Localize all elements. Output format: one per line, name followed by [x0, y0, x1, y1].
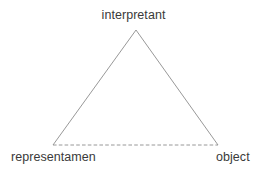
edge-left-side: [53, 30, 136, 145]
node-label-interpretant: interpretant: [0, 9, 267, 22]
node-label-representamen: representamen: [11, 151, 96, 164]
triangle-graphic: [0, 0, 267, 174]
semiotic-triangle-diagram: interpretant representamen object: [0, 0, 267, 174]
node-label-object: object: [216, 151, 250, 164]
edge-right-side: [136, 30, 218, 145]
